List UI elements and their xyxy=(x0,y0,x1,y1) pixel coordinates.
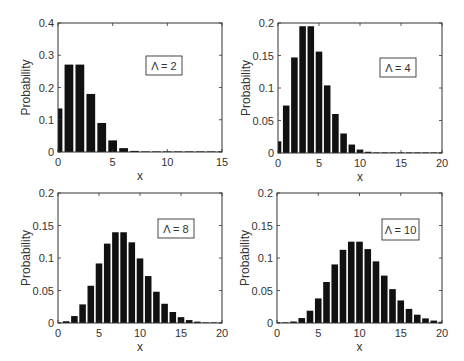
y-tick-label: 0.3 xyxy=(39,49,54,61)
legend: Λ = 10 xyxy=(382,219,419,240)
bar xyxy=(170,312,177,323)
bar-series xyxy=(277,242,442,323)
x-tick-label: 5 xyxy=(316,157,322,169)
x-tick-label: 10 xyxy=(353,327,365,339)
bar xyxy=(397,300,404,323)
bar xyxy=(349,145,356,153)
x-tick-label: 10 xyxy=(134,327,146,339)
y-axis-label: Probability xyxy=(238,230,252,286)
x-axis-label: x xyxy=(137,169,143,183)
bar xyxy=(356,242,363,323)
bar xyxy=(65,65,74,152)
bar xyxy=(58,108,62,152)
bar xyxy=(414,315,421,323)
bar xyxy=(331,264,338,323)
x-tick-label: 15 xyxy=(175,327,187,339)
y-tick-label: 0.05 xyxy=(253,115,274,127)
bar xyxy=(308,26,315,153)
y-tick-label: 0 xyxy=(268,147,274,159)
y-tick-label: 0 xyxy=(48,146,54,158)
bar xyxy=(381,276,388,323)
bar xyxy=(112,232,119,323)
subplot-lambda2: 05101500.10.20.30.4xProbabilityΛ = 2 xyxy=(19,17,228,183)
bar xyxy=(307,311,314,323)
y-axis-label: Probability xyxy=(239,60,253,116)
x-axis-label: x xyxy=(137,340,143,354)
bar xyxy=(364,249,371,323)
x-tick-label: 15 xyxy=(216,156,228,168)
bar xyxy=(298,318,305,323)
bar xyxy=(332,114,339,153)
legend: Λ = 4 xyxy=(380,58,416,77)
bar xyxy=(145,276,152,323)
bar xyxy=(120,232,127,323)
bar xyxy=(119,148,128,152)
x-axis-label: x xyxy=(357,170,363,184)
subplot-lambda8: 0510152000.050.10.150.2xProbabilityΛ = 8 xyxy=(19,187,228,354)
chart-svg: 05101500.10.20.30.4xProbabilityΛ = 20510… xyxy=(0,0,464,361)
bar xyxy=(291,57,298,153)
bar xyxy=(422,318,429,323)
figure: 05101500.10.20.30.4xProbabilityΛ = 20510… xyxy=(0,0,464,361)
bar xyxy=(75,65,84,152)
x-tick-label: 20 xyxy=(436,157,448,169)
y-tick-label: 0.1 xyxy=(39,252,54,264)
bar xyxy=(340,250,347,323)
bar xyxy=(348,242,355,323)
legend-label: Λ = 8 xyxy=(163,223,188,235)
y-tick-label: 0.1 xyxy=(39,114,54,126)
x-tick-label: 10 xyxy=(354,157,366,169)
legend-label: Λ = 10 xyxy=(385,224,417,236)
y-tick-label: 0 xyxy=(267,317,273,329)
x-tick-label: 0 xyxy=(274,327,280,339)
bar xyxy=(316,52,323,153)
y-tick-label: 0.15 xyxy=(253,50,274,62)
y-tick-label: 0.4 xyxy=(39,17,54,29)
x-tick-label: 20 xyxy=(436,327,448,339)
bar xyxy=(129,242,136,323)
x-tick-label: 5 xyxy=(315,327,321,339)
bar xyxy=(79,304,86,323)
y-tick-label: 0.05 xyxy=(33,285,54,297)
y-tick-label: 0.15 xyxy=(33,220,54,232)
y-tick-label: 0.2 xyxy=(39,187,54,199)
x-tick-label: 10 xyxy=(161,156,173,168)
legend: Λ = 8 xyxy=(158,219,194,238)
y-tick-label: 0.2 xyxy=(258,187,273,199)
y-tick-label: 0.1 xyxy=(259,82,274,94)
x-tick-label: 5 xyxy=(110,156,116,168)
y-tick-label: 0.05 xyxy=(252,285,273,297)
bar xyxy=(340,134,347,154)
y-tick-label: 0.2 xyxy=(39,82,54,94)
bar xyxy=(283,106,290,153)
x-tick-label: 0 xyxy=(55,327,61,339)
bar xyxy=(153,292,160,323)
bar xyxy=(86,94,95,152)
bar xyxy=(389,289,396,323)
bar-series xyxy=(278,26,442,153)
bar xyxy=(71,316,78,323)
bar xyxy=(161,304,168,323)
x-tick-label: 15 xyxy=(395,157,407,169)
legend-label: Λ = 2 xyxy=(151,60,176,72)
bar xyxy=(299,26,306,153)
x-tick-label: 0 xyxy=(275,157,281,169)
bar xyxy=(373,261,380,323)
y-tick-label: 0.2 xyxy=(259,17,274,29)
legend-label: Λ = 4 xyxy=(385,62,410,74)
y-tick-label: 0.1 xyxy=(258,252,273,264)
x-tick-label: 15 xyxy=(395,327,407,339)
x-tick-label: 5 xyxy=(96,327,102,339)
y-axis-label: Probability xyxy=(19,59,33,115)
bar xyxy=(323,282,330,323)
subplot-lambda10: 0510152000.050.10.150.2xProbabilityΛ = 1… xyxy=(238,187,448,354)
bar-series xyxy=(58,232,222,323)
bar xyxy=(96,263,103,323)
bar xyxy=(104,244,111,323)
x-tick-label: 0 xyxy=(55,156,61,168)
bar xyxy=(137,258,144,323)
x-axis-label: x xyxy=(357,340,363,354)
y-tick-label: 0 xyxy=(48,317,54,329)
x-tick-label: 20 xyxy=(216,327,228,339)
bar xyxy=(97,123,106,152)
